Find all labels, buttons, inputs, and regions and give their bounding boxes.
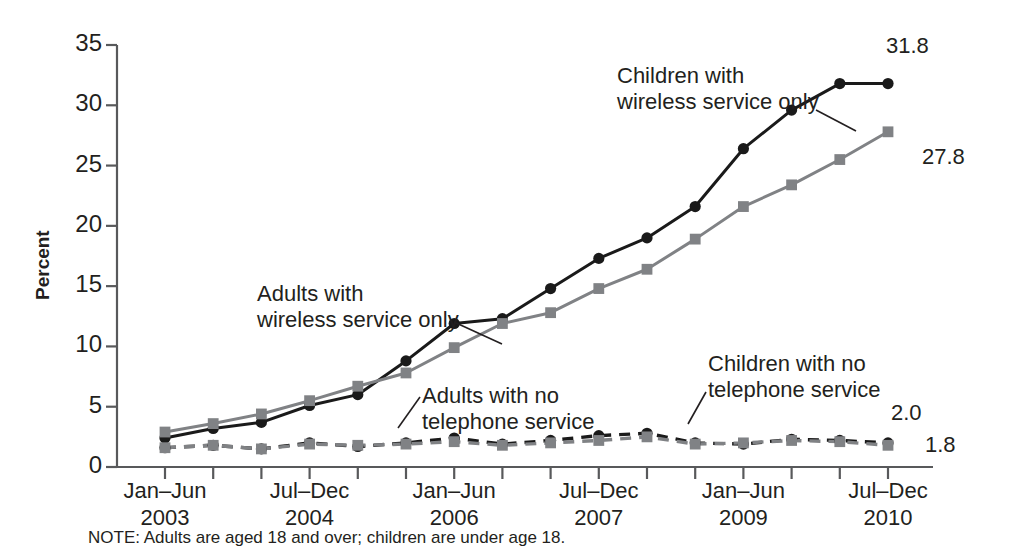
- plot-area: [0, 0, 1009, 555]
- endpoint-label-children-no-phone-end: 2.0: [891, 400, 922, 426]
- annotation-adults-wireless: Adults withwireless service only: [257, 281, 459, 334]
- annotation-line-2: wireless service only: [617, 89, 819, 115]
- annotation-adults-no-phone: Adults with notelephone service: [422, 383, 594, 436]
- annotation-line-1: Children with: [617, 63, 819, 89]
- annotation-children-wireless: Children withwireless service only: [617, 63, 819, 116]
- y-tick-label-5: 5: [40, 391, 102, 419]
- x-tick-label-2004: Jul–Dec2004: [230, 478, 390, 532]
- y-tick-label-15: 15: [40, 270, 102, 298]
- annotation-line-1: Adults with: [257, 281, 459, 307]
- x-tick-label-2003: Jan–Jun2003: [85, 478, 245, 532]
- telephone-service-line-chart: Percent 05101520253035 Jan–Jun2003Jul–De…: [0, 0, 1009, 555]
- annotation-line-1: Adults with no: [422, 383, 594, 409]
- x-tick-period: Jan–Jun: [663, 478, 823, 505]
- annotation-line-2: wireless service only: [257, 307, 459, 333]
- annotation-line-2: telephone service: [422, 409, 594, 435]
- y-tick-label-25: 25: [40, 150, 102, 178]
- annotation-children-no-phone: Children with notelephone service: [708, 351, 880, 404]
- y-tick-label-35: 35: [40, 29, 102, 57]
- x-tick-period: Jul–Dec: [808, 478, 968, 505]
- x-tick-year: 2010: [808, 505, 968, 532]
- y-tick-label-10: 10: [40, 330, 102, 358]
- y-tick-label-20: 20: [40, 210, 102, 238]
- x-tick-label-2010: Jul–Dec2010: [808, 478, 968, 532]
- x-tick-label-2009: Jan–Jun2009: [663, 478, 823, 532]
- x-tick-period: Jul–Dec: [519, 478, 679, 505]
- annotation-line-1: Children with no: [708, 351, 880, 377]
- x-tick-period: Jan–Jun: [85, 478, 245, 505]
- endpoint-label-children-wireless-end: 31.8: [886, 33, 929, 59]
- x-tick-period: Jul–Dec: [230, 478, 390, 505]
- x-tick-label-2006: Jan–Jun2006: [374, 478, 534, 532]
- y-tick-label-30: 30: [40, 89, 102, 117]
- x-tick-year: 2009: [663, 505, 823, 532]
- x-tick-period: Jan–Jun: [374, 478, 534, 505]
- figure-note: NOTE: Adults are aged 18 and over; child…: [88, 528, 565, 548]
- y-tick-label-0: 0: [40, 451, 102, 479]
- x-tick-label-2007: Jul–Dec2007: [519, 478, 679, 532]
- annotation-line-2: telephone service: [708, 377, 880, 403]
- endpoint-label-adults-no-phone-end: 1.8: [925, 432, 956, 458]
- endpoint-label-adults-wireless-end: 27.8: [922, 144, 965, 170]
